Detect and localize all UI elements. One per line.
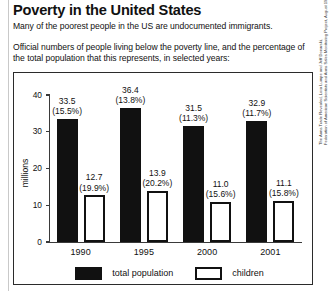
left-margin-rule — [8, 0, 9, 291]
page-subtitle: Many of the poorest people in the US are… — [13, 21, 318, 32]
legend-label-total-population: total population — [112, 268, 173, 278]
legend-label-children: children — [232, 268, 264, 278]
page-title: Poverty in the United States — [13, 2, 313, 19]
chart-frame — [13, 72, 313, 285]
chart-description: Official numbers of people living below … — [13, 42, 313, 65]
legend-swatch-children — [195, 267, 222, 280]
chart-legend: total population children — [49, 265, 302, 281]
infographic-page: Poverty in the United States Many of the… — [0, 0, 335, 301]
legend-swatch-total-population — [75, 267, 102, 280]
source-credit: The Arms Trade Revealed, Lora Lumpe and … — [318, 0, 328, 145]
source-credit-line-2: Federation of American Scientists and Ar… — [323, 0, 328, 145]
